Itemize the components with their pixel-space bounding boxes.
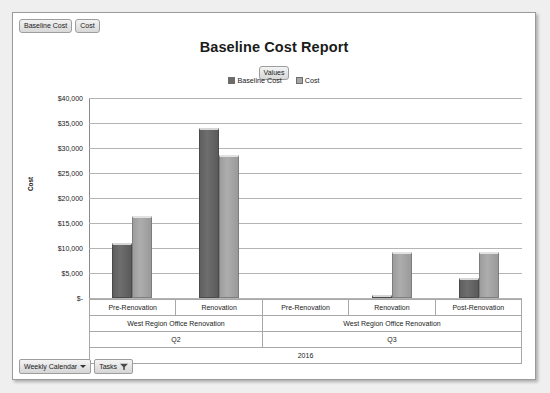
axis-label-category: Post-Renovation — [435, 299, 522, 316]
gridline — [89, 223, 522, 224]
view-selector-label: Weekly Calendar — [24, 362, 77, 371]
plot-area — [89, 98, 522, 298]
gridline — [89, 173, 522, 174]
axis-label-project: West Region Office Renovation — [89, 316, 262, 332]
bar-baseline-cost[interactable] — [199, 128, 219, 298]
gridline — [89, 273, 522, 274]
axis-label-category: Pre-Renovation — [262, 299, 348, 316]
chevron-down-icon — [80, 365, 86, 368]
filter-funnel-icon — [120, 363, 128, 371]
gridline — [89, 198, 522, 199]
bar-baseline-cost[interactable] — [112, 243, 132, 298]
y-axis-tick-label: $35,000 — [23, 120, 83, 127]
bar-cost[interactable] — [219, 155, 239, 299]
y-axis-tick-labels: $40,000$35,000$30,000$25,000$20,000$15,0… — [23, 13, 83, 381]
bottom-toolbar: Weekly Calendar Tasks — [19, 359, 133, 374]
tasks-button[interactable]: Tasks — [94, 359, 133, 374]
bar-cost[interactable] — [479, 252, 499, 299]
bar-baseline-cost[interactable] — [459, 278, 479, 298]
y-axis-tick-label: $30,000 — [23, 145, 83, 152]
gridline — [89, 248, 522, 249]
axis-label-quarter: Q2 — [89, 332, 262, 348]
gridline — [89, 98, 522, 99]
axis-row-categories: Pre-RenovationRenovationPre-RenovationRe… — [89, 299, 522, 316]
y-axis-tick-label: $10,000 — [23, 245, 83, 252]
bar-cost[interactable] — [392, 252, 412, 298]
report-panel: Baseline Cost Cost Baseline Cost Report … — [12, 12, 536, 380]
axis-label-project: West Region Office Renovation — [262, 316, 522, 332]
bar-cost[interactable] — [132, 216, 152, 299]
bar-baseline-cost[interactable] — [372, 295, 392, 298]
y-axis-tick-label: $15,000 — [23, 220, 83, 227]
y-axis-tick-label: $5,000 — [23, 270, 83, 277]
y-axis-tick-label: $20,000 — [23, 195, 83, 202]
axis-label-quarter: Q3 — [262, 332, 522, 348]
y-axis-tick-label: $25,000 — [23, 170, 83, 177]
axis-label-category: Renovation — [348, 299, 434, 316]
axis-row-year: 2016 — [89, 348, 522, 364]
x-axis-category-table: Pre-RenovationRenovationPre-RenovationRe… — [89, 299, 522, 364]
axis-row-projects: West Region Office RenovationWest Region… — [89, 316, 522, 332]
tasks-button-label: Tasks — [99, 362, 117, 371]
axis-label-year: 2016 — [89, 348, 522, 364]
gridline — [89, 148, 522, 149]
y-axis-tick-label: $40,000 — [23, 95, 83, 102]
axis-label-category: Renovation — [175, 299, 261, 316]
gridline — [89, 123, 522, 124]
axis-row-quarters: Q2Q3 — [89, 332, 522, 348]
axis-label-category: Pre-Renovation — [89, 299, 175, 316]
view-selector-button[interactable]: Weekly Calendar — [19, 359, 91, 374]
y-axis-tick-label: $- — [23, 295, 83, 302]
